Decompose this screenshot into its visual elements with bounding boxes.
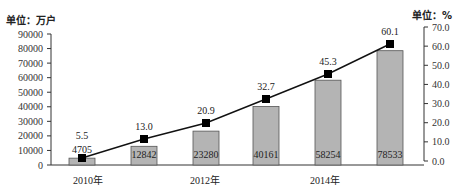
right-axis-tick-label: 10.0 xyxy=(432,136,450,147)
bar-value-label: 78533 xyxy=(378,149,403,160)
bar-value-label: 40161 xyxy=(254,149,279,160)
bar-value-label: 23280 xyxy=(194,149,219,160)
bar-value-label: 4705 xyxy=(72,144,92,155)
bar xyxy=(377,51,403,165)
left-axis-tick-label: 0 xyxy=(38,160,43,171)
right-axis-tick-label: 0.0 xyxy=(432,156,445,167)
right-axis-tick-label: 40.0 xyxy=(432,79,450,90)
combo-chart: 0100002000030000400005000060000700008000… xyxy=(0,0,461,195)
left-axis-tick-label: 20000 xyxy=(18,130,43,141)
line-value-label: 32.7 xyxy=(257,81,275,92)
line-path xyxy=(82,44,390,158)
x-axis: 2010年2012年2014年 xyxy=(51,165,424,186)
bar-value-label: 58254 xyxy=(316,149,341,160)
line-marker xyxy=(324,70,332,78)
right-axis-unit-label: 单位：% xyxy=(412,9,452,21)
data-labels: 470512842232804016158254785335.513.020.9… xyxy=(72,26,403,160)
bar-series xyxy=(69,51,403,165)
x-axis-tick-label: 2014年 xyxy=(310,174,340,186)
line-value-label: 60.1 xyxy=(381,26,399,37)
right-axis-tick-label: 60.0 xyxy=(432,41,450,52)
line-value-label: 20.9 xyxy=(197,105,215,116)
bar-value-label: 12842 xyxy=(132,149,157,160)
line-value-label: 13.0 xyxy=(135,121,153,132)
left-axis-tick-label: 90000 xyxy=(18,29,43,40)
left-axis-tick-label: 30000 xyxy=(18,116,43,127)
line-series xyxy=(78,40,394,162)
left-axis-tick-label: 60000 xyxy=(18,72,43,83)
line-marker xyxy=(202,119,210,127)
line-value-label: 45.3 xyxy=(319,56,337,67)
right-axis-tick-label: 50.0 xyxy=(432,60,450,71)
x-axis-tick-label: 2012年 xyxy=(190,174,220,186)
right-axis-tick-label: 30.0 xyxy=(432,98,450,109)
line-value-label: 5.5 xyxy=(76,130,89,141)
x-axis-tick-label: 2010年 xyxy=(73,174,103,186)
line-marker xyxy=(262,95,270,103)
left-axis-tick-label: 80000 xyxy=(18,43,43,54)
right-axis-tick-label: 70.0 xyxy=(432,22,450,33)
left-y-axis: 0100002000030000400005000060000700008000… xyxy=(18,29,51,171)
left-axis-tick-label: 70000 xyxy=(18,58,43,69)
left-axis-tick-label: 50000 xyxy=(18,87,43,98)
left-axis-tick-label: 40000 xyxy=(18,101,43,112)
line-marker xyxy=(386,40,394,48)
left-axis-tick-label: 10000 xyxy=(18,145,43,156)
line-marker xyxy=(140,135,148,143)
right-y-axis: 0.010.020.030.040.050.060.070.0 xyxy=(424,22,450,167)
left-axis-unit-label: 单位：万户 xyxy=(6,14,56,26)
line-marker xyxy=(78,154,86,162)
right-axis-tick-label: 20.0 xyxy=(432,117,450,128)
